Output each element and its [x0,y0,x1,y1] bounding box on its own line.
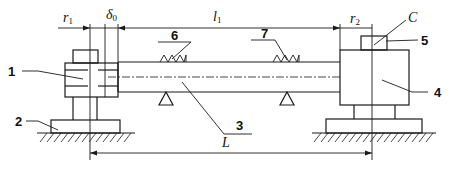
leader-6b [172,42,191,59]
right-motor-block [340,50,409,105]
support-right [280,92,294,105]
part-number-1: 1 [8,64,15,79]
right-ground-hatch [312,133,436,142]
leader-7b [275,40,287,60]
dim-label-r1: r1 [63,10,73,26]
bottom-dimension-L [90,151,372,156]
dim-label-delta0: δ0 [106,7,118,23]
shaft [108,62,340,92]
part-number-6: 6 [171,28,178,43]
leader-4a [382,80,412,92]
right-column [354,105,395,119]
part-number-5: 5 [421,33,428,48]
dim-label-r2: r2 [350,11,360,27]
point-label-c: C [408,10,418,25]
leader-1b [38,71,83,79]
right-base [326,119,422,133]
leader-3a [182,82,224,134]
mechanical-diagram: r1 δ0 l1 r2 C [0,0,454,171]
left-coupling-unit [65,50,118,120]
part-number-4: 4 [434,85,442,100]
left-ground-hatch [37,133,135,142]
part-number-7: 7 [261,26,268,41]
leader-2b [38,121,58,130]
dim-label-l1: l1 [213,9,221,25]
dim-label-L: L [221,135,230,150]
left-base [51,120,120,133]
part-number-2: 2 [15,114,22,129]
leader-5 [386,40,418,41]
part-number-3: 3 [236,118,243,133]
support-left [159,92,173,105]
